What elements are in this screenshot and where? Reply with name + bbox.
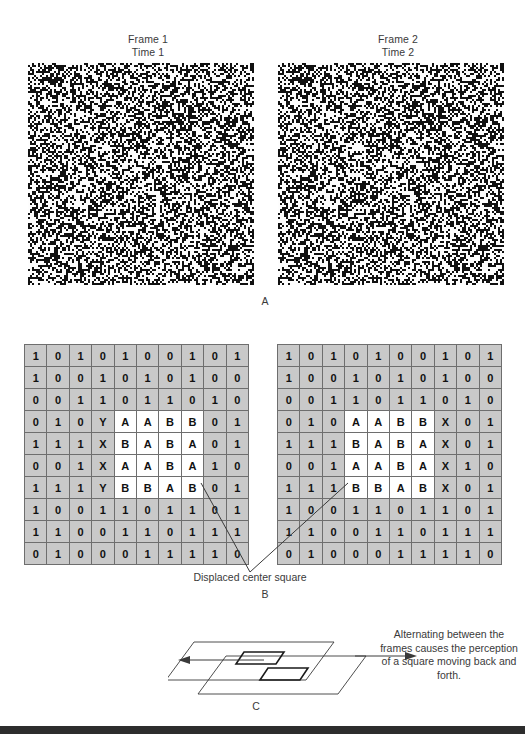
grid-cell: 1: [159, 389, 181, 411]
grid-cell-center: B: [181, 477, 203, 499]
grid-cell-center: B: [389, 433, 411, 455]
grid-row: 111BABAX01: [278, 433, 502, 455]
grid-cell: 0: [322, 367, 344, 389]
grid-cell: 1: [322, 433, 344, 455]
grid-row: 1100110111: [278, 521, 502, 543]
panel-letter-a: A: [245, 295, 285, 307]
grid-cell: 1: [181, 543, 203, 565]
grid-cell: 0: [114, 543, 136, 565]
grid-cell: 0: [322, 499, 344, 521]
grid-cell: 1: [136, 367, 158, 389]
grid-cell: 1: [434, 367, 456, 389]
digit-grid-frame-2: 101010010110010101000011011010010AABBX01…: [277, 344, 502, 565]
grid-cell: 1: [25, 433, 47, 455]
grid-cell: 1: [412, 499, 434, 521]
grid-cell-center: A: [136, 411, 158, 433]
grid-cell-center: A: [345, 455, 367, 477]
grid-cell: 1: [136, 389, 158, 411]
grid-cell: 0: [389, 499, 411, 521]
grid-row: 010AABBX01: [278, 411, 502, 433]
grid-cell-center: B: [412, 411, 434, 433]
grid-cell: 1: [278, 521, 300, 543]
grid-cell: 0: [47, 345, 69, 367]
grid-cell-center: A: [367, 433, 389, 455]
grid-cell: Y: [92, 477, 114, 499]
grid-cell: Y: [92, 411, 114, 433]
grid-cell: 0: [412, 345, 434, 367]
grid-cell: 1: [69, 345, 91, 367]
grid-cell-center: B: [389, 455, 411, 477]
grid-cell: 1: [25, 477, 47, 499]
grid-cell: 1: [457, 389, 479, 411]
grid-cell: 1: [278, 499, 300, 521]
grid-row: 1001010100: [278, 367, 502, 389]
grid-cell: 1: [457, 521, 479, 543]
grid-cell-center: A: [181, 455, 203, 477]
grid-cell: 0: [204, 477, 226, 499]
grid-cell: 1: [367, 345, 389, 367]
grid-cell: 0: [25, 455, 47, 477]
grid-cell: 1: [47, 543, 69, 565]
grid-cell: 1: [300, 433, 322, 455]
grid-cell: 1: [204, 455, 226, 477]
grid-cell: 1: [159, 499, 181, 521]
grid-cell: 1: [300, 477, 322, 499]
grid-cell-center: B: [345, 477, 367, 499]
grid-cell: 1: [300, 543, 322, 565]
grid-cell: 0: [367, 367, 389, 389]
panel-letter-c: C: [236, 700, 276, 712]
grid-cell: 0: [114, 367, 136, 389]
grid-cell-center: A: [114, 411, 136, 433]
grid-cell: 0: [47, 389, 69, 411]
grid-cell: 0: [457, 345, 479, 367]
grid-cell: 1: [457, 455, 479, 477]
grid-cell: 1: [181, 367, 203, 389]
grid-cell: 0: [457, 433, 479, 455]
grid-cell: 1: [69, 455, 91, 477]
grid-cell: 0: [204, 499, 226, 521]
grid-cell: 0: [322, 543, 344, 565]
grid-cell: 0: [204, 433, 226, 455]
grid-cell: 1: [226, 477, 248, 499]
grid-cell: 0: [412, 367, 434, 389]
grid-row: 111XBABA01: [25, 433, 249, 455]
grid-row: 1100110111: [25, 521, 249, 543]
grid-cell: 1: [479, 433, 501, 455]
grid-cell: 0: [204, 345, 226, 367]
grid-cell: 0: [479, 543, 501, 565]
grid-cell-center: B: [159, 411, 181, 433]
grid-cell: 0: [457, 367, 479, 389]
grid-cell: 1: [226, 521, 248, 543]
grid-cell: 0: [345, 521, 367, 543]
grid-row: 0100011110: [278, 543, 502, 565]
grid-cell: 1: [434, 345, 456, 367]
random-dot-pattern-frame-2: [278, 63, 504, 285]
grid-cell: 1: [479, 477, 501, 499]
grid-cell: 0: [457, 499, 479, 521]
grid-cell: 1: [278, 367, 300, 389]
grid-cell: 0: [25, 543, 47, 565]
grid-cell: 1: [367, 521, 389, 543]
grid-cell: 1: [47, 433, 69, 455]
grid-cell: 0: [300, 389, 322, 411]
grid-cell: 0: [367, 389, 389, 411]
grid-row: 0011011010: [278, 389, 502, 411]
grid-cell: X: [434, 477, 456, 499]
grid-cell: 1: [479, 345, 501, 367]
grid-cell: 0: [69, 543, 91, 565]
grid-cell: 0: [300, 499, 322, 521]
grid-cell-center: A: [367, 455, 389, 477]
grid-cell: X: [92, 433, 114, 455]
grid-cell-center: B: [412, 477, 434, 499]
grid-cell: 0: [159, 367, 181, 389]
grid-cell: 0: [25, 389, 47, 411]
grid-cell: 1: [434, 499, 456, 521]
grid-cell: 1: [345, 499, 367, 521]
grid-cell: 1: [47, 477, 69, 499]
grid-cell-center: B: [114, 477, 136, 499]
grid-cell: 0: [278, 455, 300, 477]
grid-cell: 1: [322, 477, 344, 499]
grid-cell: 1: [226, 499, 248, 521]
grid-cell: 1: [25, 521, 47, 543]
grid-cell: X: [92, 455, 114, 477]
